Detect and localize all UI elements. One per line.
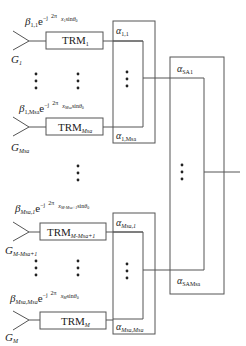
beamforming-diagram: β1,1e−j2πx1sinθ0 G1 TRM1 α1,1 β1,Msae−j2… <box>0 0 246 346</box>
subarray-1-inner-box <box>113 41 143 127</box>
alpha-1-1-label: α1,1 <box>116 25 129 37</box>
ellipsis-dots-sa <box>181 164 184 181</box>
ellipsis-dots-left-1 <box>35 73 38 90</box>
trm-1-label: TRM1 <box>62 34 89 47</box>
antenna-m-msa-plus-1 <box>13 222 40 241</box>
antenna-msa-label: GMsa <box>11 141 29 154</box>
weight-msa-label: β1,Msae−j2πxMsasinθ0 <box>18 100 84 115</box>
ellipsis-dots-left-2 <box>35 260 38 277</box>
ellipsis-dots-center <box>77 165 80 182</box>
antenna-m <box>13 311 40 330</box>
ellipsis-dots-mid-1 <box>77 73 80 90</box>
sa-outer-box <box>170 57 224 294</box>
trm-m-msa-plus-1-label: TRMM-Msa+1 <box>47 226 95 239</box>
ellipsis-dots-subarray-1 <box>126 71 129 88</box>
weight-1-label: β1,1e−j2πx1sinθ0 <box>24 13 78 28</box>
alpha-1-msa-label: α1,Msa <box>116 130 136 142</box>
ellipsis-dots-subarray-2 <box>126 263 129 280</box>
subarray-1-outer-box <box>113 21 155 143</box>
weight-m-msa-plus-1-label: βMsa,1e−j2πxM-Msa+1sinθ0 <box>14 200 89 215</box>
alpha-msa-msa-label: αMsa,Msa <box>116 321 143 333</box>
antenna-1-label: G1 <box>11 53 22 66</box>
alpha-sa-msa-label: αSAMsa <box>177 275 201 287</box>
antenna-m-label: GM <box>5 331 19 344</box>
antenna-m-msa-plus-1-label: GM-Msa+1 <box>5 244 37 257</box>
antenna-1 <box>13 31 46 50</box>
subarray-msa-outer-box <box>113 213 155 334</box>
weight-m-label: βMsa,Msae−j2πxMsinθ0 <box>9 290 79 305</box>
subarray-msa-inner-box <box>113 232 143 319</box>
antenna-msa <box>13 117 46 136</box>
alpha-sa-1-label: αSA1 <box>177 63 193 75</box>
trm-msa-label: TRMMsa <box>58 121 92 134</box>
trm-m-label: TRMM <box>61 315 91 328</box>
ellipsis-dots-mid-2 <box>77 260 80 277</box>
alpha-msa-1-label: αMsa,1 <box>116 217 136 229</box>
